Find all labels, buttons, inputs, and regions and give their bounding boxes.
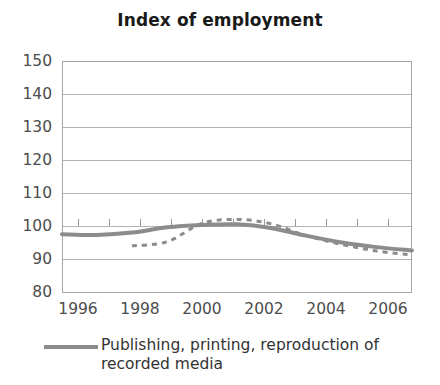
legend-swatch-publishing <box>44 336 100 349</box>
ytick-label-100: 100 <box>8 217 52 235</box>
ytick-label-140: 140 <box>8 85 52 103</box>
xtick-label-1996: 1996 <box>48 300 108 318</box>
ytick-label-80: 80 <box>8 283 52 301</box>
legend-label-publishing: Publishing, printing, reproduction of re… <box>100 336 440 374</box>
xtick-label-2004: 2004 <box>296 300 356 318</box>
xtick-label-2002: 2002 <box>234 300 294 318</box>
xtick-label-2006: 2006 <box>358 300 418 318</box>
chart-figure: Index of employment <box>0 0 440 385</box>
ytick-label-120: 120 <box>8 151 52 169</box>
plot-background <box>62 61 412 292</box>
xtick-label-2000: 2000 <box>172 300 232 318</box>
line-swatch-icon <box>44 345 98 349</box>
chart-legend: Publishing, printing, reproduction of re… <box>44 336 440 374</box>
ytick-label-130: 130 <box>8 118 52 136</box>
chart-plot-svg <box>0 0 440 320</box>
xtick-label-1998: 1998 <box>110 300 170 318</box>
plot-area: 150 140 130 120 110 100 90 80 1996 1998 … <box>0 0 440 320</box>
ytick-label-110: 110 <box>8 184 52 202</box>
ytick-label-150: 150 <box>8 52 52 70</box>
ytick-label-90: 90 <box>8 250 52 268</box>
